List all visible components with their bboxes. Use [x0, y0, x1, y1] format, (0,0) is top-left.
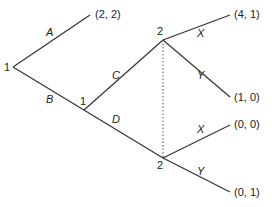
edge-label-x-lower: X: [197, 124, 204, 135]
tree-lines: [0, 0, 272, 207]
payoff-cy: (1, 0): [234, 92, 260, 103]
node-root-player: 1: [4, 62, 10, 73]
edge-label-c: C: [112, 70, 120, 81]
payoff-a: (2, 2): [95, 9, 121, 20]
payoff-cx: (4, 1): [234, 9, 260, 20]
game-tree: 1 1 2 2 A B C D X Y X Y (2, 2) (4, 1) (1…: [0, 0, 272, 207]
edge-label-y-lower: Y: [197, 166, 204, 177]
edge-a: [13, 15, 90, 67]
edge-c: [84, 40, 163, 110]
edge-label-d: D: [112, 114, 120, 125]
edge-b-d: [13, 67, 163, 158]
payoff-dx: (0, 0): [234, 119, 260, 130]
node-n2a-player: 2: [157, 26, 163, 37]
payoff-dy: (0, 1): [234, 187, 260, 198]
edge-label-y-upper: Y: [197, 70, 204, 81]
edge-label-a: A: [46, 27, 53, 38]
node-n1-player: 1: [80, 96, 86, 107]
edge-label-x-upper: X: [197, 28, 204, 39]
edge-label-b: B: [46, 94, 53, 105]
node-n2b-player: 2: [157, 160, 163, 171]
